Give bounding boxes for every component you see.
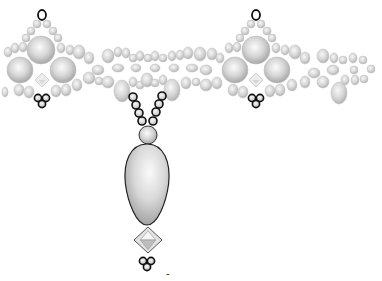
seed-bead [92, 65, 104, 75]
seed-bead [281, 45, 289, 55]
seed-bead [351, 75, 359, 85]
top-loop-bead [38, 10, 46, 20]
seed-bead [49, 27, 57, 35]
seed-bead [61, 84, 71, 96]
seed-bead [265, 85, 275, 97]
seed-bead [194, 47, 206, 61]
seed-bead [247, 20, 255, 28]
seed-bead [308, 68, 320, 78]
seed-bead [272, 43, 280, 53]
seed-bead [225, 43, 233, 53]
seed-bead [151, 79, 159, 87]
bead-pattern-canvas: - [0, 0, 382, 281]
bead-pattern-diagram: Beaded pendant necklace pattern [0, 0, 382, 281]
seed-bead [168, 51, 176, 61]
seed-bead [300, 52, 310, 64]
chain-seed-bead [155, 100, 163, 108]
seed-bead [200, 65, 212, 75]
center-pendant-strand [125, 92, 169, 271]
seed-bead [216, 53, 224, 63]
chain-seed-bead [132, 101, 140, 109]
seed-bead [359, 56, 367, 64]
seed-bead [176, 50, 184, 60]
seed-bead [43, 20, 51, 28]
seed-bead [275, 84, 285, 96]
seed-bead [327, 65, 339, 75]
seed-bead [72, 79, 82, 91]
seed-bead [136, 51, 144, 61]
seed-bead [263, 27, 271, 35]
large-pearl-bead [242, 36, 270, 64]
trefoil-bead-bottom [143, 263, 150, 270]
seed-bead [151, 51, 159, 61]
top-loop-bead [252, 10, 260, 20]
seed-bead [112, 64, 124, 72]
large-pearl-bead [50, 57, 76, 83]
seed-bead [57, 43, 65, 53]
seed-bead [350, 66, 358, 74]
seed-bead [238, 86, 248, 98]
seed-bead [27, 27, 35, 35]
seed-bead [51, 85, 61, 97]
seed-bead [349, 53, 357, 63]
chain-seed-bead [149, 117, 157, 125]
chain-seed-bead [138, 117, 146, 125]
seed-bead [212, 77, 222, 89]
seed-bead [207, 48, 217, 60]
large-pearl-bead [27, 36, 55, 64]
seed-bead [54, 34, 62, 42]
seed-bead [4, 47, 12, 57]
seed-bead [360, 75, 368, 83]
seed-bead [83, 72, 95, 84]
seed-bead [287, 79, 297, 91]
seed-bead [233, 42, 241, 52]
seed-bead [159, 54, 167, 62]
seed-bead [73, 45, 85, 59]
trefoil-bead-bottom [252, 100, 259, 107]
seed-bead [339, 56, 347, 64]
chain-seed-bead [135, 109, 143, 117]
seed-bead [114, 80, 130, 102]
seed-bead [300, 76, 310, 88]
large-pearl-bead [264, 57, 290, 83]
seed-bead [102, 49, 114, 63]
large-pearl-bead [222, 57, 248, 83]
seed-bead [317, 76, 329, 88]
seed-bead [181, 77, 191, 89]
chain-seed-bead [152, 108, 160, 116]
seed-bead [22, 34, 30, 42]
seed-bead [257, 20, 265, 28]
seed-bead [19, 42, 27, 52]
seed-bead [102, 76, 114, 88]
seed-bead [200, 79, 212, 91]
seed-bead [131, 64, 141, 72]
seed-bead [183, 47, 193, 59]
seed-bead [122, 48, 130, 58]
seed-bead [331, 82, 347, 104]
seed-bead [330, 53, 338, 63]
seed-bead [236, 34, 244, 42]
seed-bead [367, 65, 375, 73]
large-pearl-bead [7, 57, 33, 83]
seed-bead [24, 86, 34, 98]
seed-bead [186, 64, 198, 72]
seed-bead [317, 49, 329, 63]
teardrop-pendant [125, 144, 169, 225]
chain-seed-bead [129, 93, 137, 101]
seed-bead [289, 45, 301, 59]
seed-bead [169, 64, 179, 72]
connector-round-bead [139, 126, 157, 144]
bottom-trefoil-beads [34, 94, 263, 107]
seed-bead [268, 34, 276, 42]
chain-seed-bead [158, 92, 166, 100]
stray-mark: - [166, 268, 170, 279]
seed-bead [114, 47, 122, 57]
seed-bead [228, 84, 238, 96]
top-loop-beads [38, 10, 260, 20]
seed-bead [66, 45, 74, 55]
trefoil-bead-bottom [38, 100, 45, 107]
seed-bead [33, 20, 41, 28]
seed-bead [150, 64, 160, 72]
seed-bead [241, 27, 249, 35]
seed-bead [14, 84, 24, 96]
